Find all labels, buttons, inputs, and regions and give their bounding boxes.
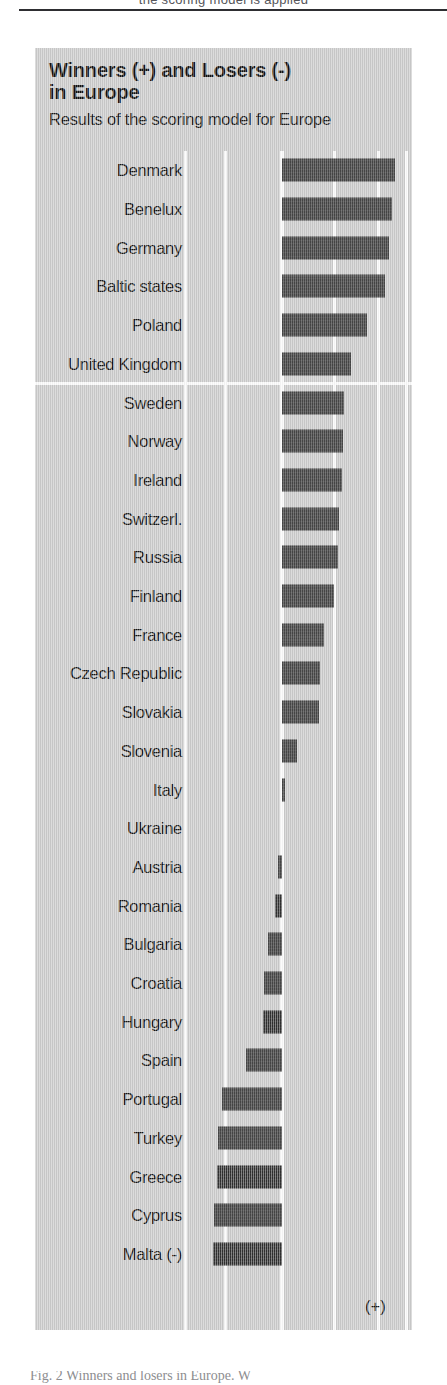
chart-row[interactable]: Finland (35, 577, 412, 616)
bar-spain[interactable] (246, 1049, 282, 1072)
bar-greece[interactable] (217, 1165, 282, 1188)
bar-ireland[interactable] (282, 468, 342, 491)
row-label-denmark: Denmark (117, 161, 182, 180)
row-label-norway: Norway (128, 432, 182, 451)
group-separator-line (35, 382, 412, 385)
chart-row[interactable]: Sweden (35, 383, 412, 422)
row-label-cyprus: Cyprus (131, 1206, 182, 1225)
chart-title: Winners (+) and Losers (-) in Europe (49, 60, 399, 103)
chart-row[interactable]: United Kingdom (35, 345, 412, 384)
bar-malta[interactable] (213, 1242, 282, 1265)
chart-row[interactable]: France (35, 615, 412, 654)
chart-row[interactable]: Romania (35, 886, 412, 925)
chart-title-line1: Winners (+) and Losers (-) (49, 60, 399, 82)
chart-row[interactable]: Austria (35, 848, 412, 887)
chart-row[interactable]: Turkey (35, 1119, 412, 1158)
chart-row[interactable]: Germany (35, 228, 412, 267)
bar-norway[interactable] (282, 430, 343, 453)
bar-austria[interactable] (278, 855, 282, 878)
row-label-italy: Italy (153, 780, 182, 799)
row-label-poland: Poland (132, 316, 182, 335)
row-label-romania: Romania (118, 896, 182, 915)
bar-slovakia[interactable] (282, 701, 319, 724)
row-label-czech-republic: Czech Republic (70, 664, 182, 683)
chart-row[interactable]: Norway (35, 422, 412, 461)
row-label-finland: Finland (130, 587, 182, 606)
chart-row[interactable]: Spain (35, 1041, 412, 1080)
bar-sweden[interactable] (282, 391, 344, 414)
chart-row[interactable]: Poland (35, 306, 412, 345)
chart-row[interactable]: Switzerl. (35, 499, 412, 538)
row-label-sweden: Sweden (124, 393, 182, 412)
chart-row[interactable]: Benelux (35, 190, 412, 229)
chart-row[interactable]: Croatia (35, 964, 412, 1003)
chart-row[interactable]: Czech Republic (35, 654, 412, 693)
bar-france[interactable] (282, 623, 324, 646)
bar-hungary[interactable] (263, 1010, 282, 1033)
bar-finland[interactable] (282, 585, 334, 608)
chart-row[interactable]: Malta (-) (35, 1235, 412, 1274)
row-label-ukraine: Ukraine (127, 819, 182, 838)
row-label-malta: Malta (-) (123, 1244, 182, 1263)
chart-row[interactable]: Ireland (35, 461, 412, 500)
chart-row[interactable]: Denmark (35, 151, 412, 190)
row-label-russia: Russia (133, 548, 182, 567)
bar-switzerl[interactable] (282, 507, 339, 530)
row-label-france: France (132, 625, 182, 644)
bar-russia[interactable] (282, 546, 338, 569)
chart-subtitle: Results of the scoring model for Europe (49, 110, 409, 128)
row-label-switzerl: Switzerl. (122, 509, 182, 528)
bar-slovenia[interactable] (282, 739, 297, 762)
axis-positive-marker: (+) (365, 1297, 386, 1316)
chart-row[interactable]: Italy (35, 770, 412, 809)
page-horizontal-rule (19, 9, 447, 11)
row-label-croatia: Croatia (131, 974, 182, 993)
row-label-turkey: Turkey (134, 1128, 182, 1147)
row-label-united-kingdom: United Kingdom (68, 354, 182, 373)
row-label-benelux: Benelux (124, 200, 182, 219)
bar-cyprus[interactable] (214, 1204, 282, 1227)
row-label-hungary: Hungary (121, 1012, 182, 1031)
chart-panel: Winners (+) and Losers (-) in Europe Res… (35, 48, 412, 1330)
row-label-austria: Austria (132, 857, 182, 876)
row-label-spain: Spain (141, 1051, 182, 1070)
chart-row[interactable]: Portugal (35, 1080, 412, 1119)
chart-row[interactable]: Russia (35, 538, 412, 577)
bar-portugal[interactable] (222, 1088, 282, 1111)
bar-benelux[interactable] (282, 198, 392, 221)
chart-row[interactable]: Slovakia (35, 693, 412, 732)
figure-caption: Fig. 2 Winners and losers in Europe. W (30, 1371, 430, 1385)
bar-poland[interactable] (282, 314, 367, 337)
chart-row[interactable]: Baltic states (35, 267, 412, 306)
bar-bulgaria[interactable] (268, 933, 282, 956)
row-label-germany: Germany (116, 238, 182, 257)
bar-czech-republic[interactable] (282, 662, 320, 685)
row-label-slovakia: Slovakia (122, 703, 182, 722)
chart-row[interactable]: Slovenia (35, 732, 412, 771)
row-label-slovenia: Slovenia (121, 741, 182, 760)
bar-turkey[interactable] (218, 1126, 282, 1149)
chart-row[interactable]: Hungary (35, 1002, 412, 1041)
chart-title-line2: in Europe (49, 82, 399, 104)
bar-chart-plot-area: DenmarkBeneluxGermanyBaltic statesPoland… (35, 48, 412, 1330)
bar-baltic-states[interactable] (282, 275, 385, 298)
bar-italy[interactable] (282, 778, 285, 801)
row-label-ireland: Ireland (133, 470, 182, 489)
bar-romania[interactable] (275, 894, 282, 917)
bar-united-kingdom[interactable] (282, 352, 351, 375)
page-top-text-fragment: the scoring model is applied (0, 0, 447, 8)
row-label-baltic-states: Baltic states (96, 277, 182, 296)
bar-denmark[interactable] (282, 159, 395, 182)
row-label-portugal: Portugal (123, 1090, 182, 1109)
row-label-greece: Greece (129, 1167, 182, 1186)
bar-croatia[interactable] (264, 972, 282, 995)
row-label-bulgaria: Bulgaria (123, 935, 182, 954)
chart-row[interactable]: Bulgaria (35, 925, 412, 964)
bar-germany[interactable] (282, 236, 389, 259)
chart-row[interactable]: Greece (35, 1157, 412, 1196)
chart-row[interactable]: Cyprus (35, 1196, 412, 1235)
chart-row[interactable]: Ukraine (35, 809, 412, 848)
